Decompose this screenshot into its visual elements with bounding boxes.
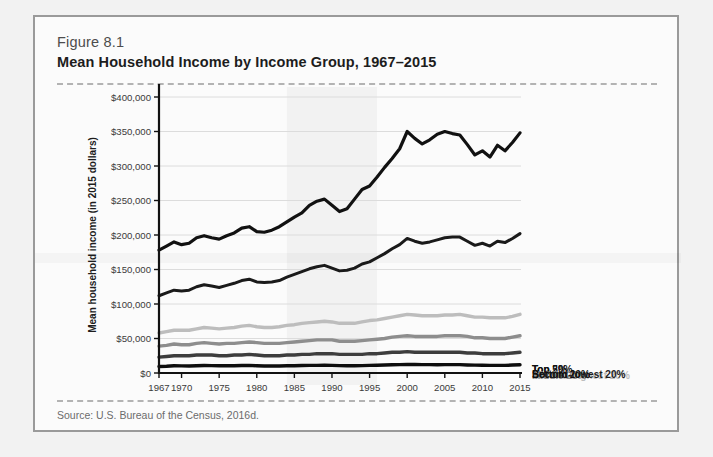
x-tick-label: 1970 [171,382,192,393]
x-tick-label: 2015 [509,382,530,393]
line-chart: $0$50,000$100,000$150,000$200,000$250,00… [35,17,681,434]
x-tick-label: 2000 [397,382,418,393]
x-tick-label: 1985 [284,382,305,393]
y-tick-label: $300,000 [111,161,151,172]
y-tick-label: $50,000 [116,333,151,344]
x-tick-label: 2005 [434,382,455,393]
x-tick-label: 1967 [148,382,169,393]
figure-card: Figure 8.1 Mean Household Income by Inco… [33,15,679,432]
y-axis-title: Mean household income (in 2015 dollars) [87,137,98,333]
y-tick-label: $250,000 [111,195,151,206]
x-tick-label: 1980 [246,382,267,393]
y-tick-label: $0 [140,368,151,379]
series-line-bottom-20 [159,364,520,366]
y-tick-label: $400,000 [111,92,151,103]
x-tick-label: 1975 [208,382,229,393]
x-tick-label: 2010 [472,382,493,393]
x-axis-tick-labels: 1967197019751980198519901995200020052010… [148,382,530,393]
chart-area: $0$50,000$100,000$150,000$200,000$250,00… [35,17,681,434]
x-tick-label: 1990 [321,382,342,393]
x-tick-label: 1995 [359,382,380,393]
y-tick-label: $150,000 [111,264,151,275]
y-tick-label: $200,000 [111,230,151,241]
series-labels-group: Top 5%Top 20%Second-highest 20%Middle 20… [532,364,630,381]
series-label-bottom-20: Bottom 20% [532,369,590,380]
y-tick-label: $100,000 [111,299,151,310]
y-tick-label: $350,000 [111,126,151,137]
y-axis-tick-labels: $0$50,000$100,000$150,000$200,000$250,00… [111,92,151,379]
